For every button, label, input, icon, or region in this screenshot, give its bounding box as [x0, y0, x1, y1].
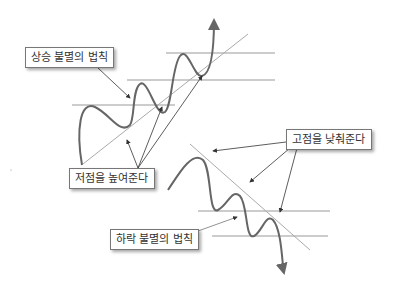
higher-lows-label: 저점을 높여준다: [69, 168, 155, 189]
trend-diagram: 상승 불멸의 법칙 저점을 높여준다 고점을 낮춰준다 하락 불멸의 법칙: [0, 0, 400, 283]
uptrend-chart: [72, 20, 275, 168]
uptrend-title-label: 상승 불멸의 법칙: [25, 47, 114, 68]
lower-highs-label: 고점을 낮춰준다: [286, 129, 372, 150]
downtrend-title-label: 하락 불멸의 법칙: [110, 229, 199, 250]
downtrend-chart: [168, 142, 330, 273]
